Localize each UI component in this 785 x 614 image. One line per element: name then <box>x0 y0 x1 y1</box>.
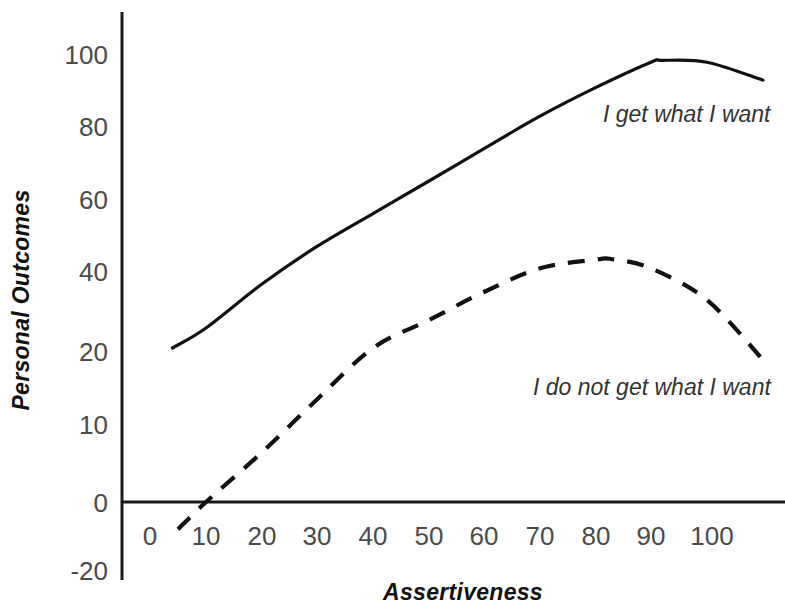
line-chart: 100 80 60 40 20 10 0 -20 0 10 20 30 40 5… <box>0 0 785 614</box>
y-tick-label-80: 80 <box>79 112 108 142</box>
x-tick-label-0: 0 <box>143 521 157 551</box>
y-tick-label-0: 0 <box>94 488 108 518</box>
x-axis-title: Assertiveness <box>382 579 543 605</box>
x-tick-label-30: 30 <box>303 521 332 551</box>
y-tick-label-40: 40 <box>79 257 108 287</box>
y-tick-label-100: 100 <box>65 40 108 70</box>
x-tick-label-90: 90 <box>637 521 666 551</box>
y-axis-title: Personal Outcomes <box>8 189 34 410</box>
y-tick-label-minus-20: -20 <box>70 556 108 586</box>
y-tick-label-20: 20 <box>79 337 108 367</box>
x-tick-label-40: 40 <box>359 521 388 551</box>
x-tick-label-50: 50 <box>415 521 444 551</box>
x-tick-label-10: 10 <box>192 521 221 551</box>
x-tick-label-20: 20 <box>248 521 277 551</box>
x-tick-label-70: 70 <box>526 521 555 551</box>
x-tick-label-100: 100 <box>690 521 733 551</box>
y-tick-label-60: 60 <box>79 185 108 215</box>
chart-container: 100 80 60 40 20 10 0 -20 0 10 20 30 40 5… <box>0 0 785 614</box>
y-tick-label-10: 10 <box>79 410 108 440</box>
x-tick-label-60: 60 <box>470 521 499 551</box>
x-tick-label-80: 80 <box>582 521 611 551</box>
series-label-dashed: I do not get what I want <box>533 374 772 400</box>
series-label-solid: I get what I want <box>603 101 772 127</box>
